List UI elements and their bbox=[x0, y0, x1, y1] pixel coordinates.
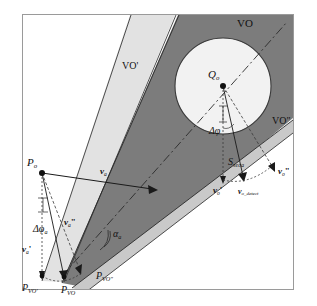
label-p-o: Po bbox=[27, 157, 37, 170]
label-p-vo: PVO bbox=[61, 285, 75, 296]
point-q-o bbox=[220, 83, 226, 89]
label-v-a-double-prime: va" bbox=[64, 218, 76, 228]
label-delta-phi-a: Δφa bbox=[33, 224, 48, 235]
label-v-o-double-prime: vo" bbox=[278, 167, 290, 177]
label-delta-phi: Δφ bbox=[209, 126, 220, 136]
label-vo: VO bbox=[237, 18, 253, 29]
vo-geometry-figure: VO VO' VO" Qo Po va va' va" Δφa αa Δφ Ss… bbox=[0, 0, 317, 306]
point-p-vo bbox=[62, 275, 67, 280]
label-q-o: Qo bbox=[208, 69, 219, 82]
label-v-o-detect: vo_detect bbox=[238, 188, 258, 197]
label-p-vo-double-prime: PVO" bbox=[96, 271, 113, 282]
label-p-vo-prime: PVO' bbox=[22, 283, 38, 294]
label-vo-double-prime: VO" bbox=[272, 116, 291, 126]
label-v-a-prime: va' bbox=[22, 245, 31, 255]
label-vo-prime: VO' bbox=[122, 61, 138, 71]
diagram-canvas bbox=[0, 0, 317, 306]
point-p-vo-prime bbox=[40, 274, 45, 279]
point-p-o bbox=[39, 170, 45, 176]
label-v-o-prime: vo' bbox=[213, 186, 222, 196]
label-alpha-a: αa bbox=[113, 229, 121, 240]
label-v-a: va bbox=[100, 167, 107, 177]
label-s-seca: Sseca bbox=[228, 157, 244, 168]
